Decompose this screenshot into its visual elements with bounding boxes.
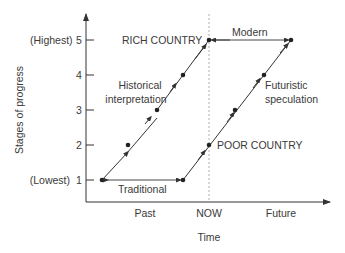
poor-country-label: POOR COUNTRY [217,140,303,151]
historical-label-line1: Historical [105,80,175,91]
x-category-now: NOW [184,208,234,219]
traditional-label: Traditional [118,184,167,195]
modern-label: Modern [232,27,268,38]
futuristic-label-line1: Futuristic [265,80,308,91]
futuristic-label-line2: speculation [265,94,318,105]
y-tick-4: 4 [76,70,82,81]
y-tick-5: 5 [76,35,82,46]
y-tick-qualifier-highest: (Highest) [30,35,70,46]
historical-label-line2: interpretation [96,94,176,105]
y-tick-qualifier-lowest: (Lowest) [28,175,70,186]
x-category-future: Future [256,208,306,219]
y-tick-1: 1 [76,175,82,186]
x-category-past: Past [120,208,170,219]
y-tick-2: 2 [76,140,82,151]
rich-country-label: RICH COUNTRY [122,35,202,46]
x-axis-title: Time [184,232,234,243]
y-tick-3: 3 [76,105,82,116]
y-axis [86,14,94,202]
y-axis-title: Stages of progress [13,66,25,154]
